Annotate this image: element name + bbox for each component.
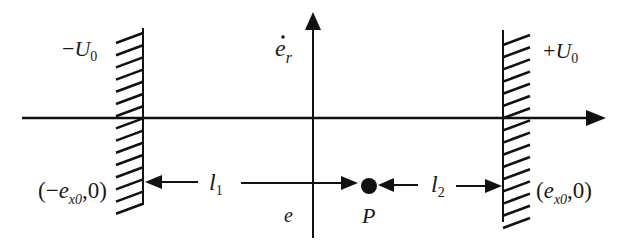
hatch-stroke xyxy=(503,206,530,216)
dimension-l1 xyxy=(145,175,358,190)
hatch-stroke xyxy=(503,47,530,57)
left-wall xyxy=(116,28,143,214)
right-potential-label: +U0 xyxy=(543,38,578,66)
lower-axis-label-e: e xyxy=(284,204,293,226)
hatch-stroke xyxy=(503,35,530,45)
right-point-label: (ex0,0) xyxy=(536,178,592,207)
hatch-stroke xyxy=(503,218,530,228)
hatch-stroke xyxy=(116,70,143,80)
hatch-stroke xyxy=(503,169,530,179)
l1-label: l1 xyxy=(209,169,223,198)
hatch-stroke xyxy=(116,94,143,104)
hatch-stroke xyxy=(503,194,530,204)
point-p-label: P xyxy=(361,203,375,228)
hatch-stroke xyxy=(503,120,530,130)
right-wall-hatching xyxy=(503,35,530,228)
hatch-stroke xyxy=(503,84,530,94)
hatch-stroke xyxy=(503,59,530,69)
hatch-stroke xyxy=(503,157,530,167)
l2-label: l2 xyxy=(431,171,445,200)
left-potential-label: −U0 xyxy=(62,36,97,64)
left-point-label: (−ex0,0) xyxy=(38,178,107,207)
arrow-right-icon xyxy=(341,176,358,190)
hatch-stroke xyxy=(116,155,143,165)
phase-plane-diagram: −U0 +U0 er (−ex0,0) (ex0,0) l1 l2 P e xyxy=(0,0,627,249)
hatch-stroke xyxy=(116,82,143,92)
left-wall-hatching xyxy=(116,33,143,214)
hatch-stroke xyxy=(503,72,530,82)
hatch-stroke xyxy=(503,145,530,155)
hatch-stroke xyxy=(116,204,143,214)
svg-text:er: er xyxy=(275,35,293,66)
hatch-stroke xyxy=(116,45,143,55)
hatch-stroke xyxy=(116,33,143,43)
hatch-stroke xyxy=(116,106,143,116)
axis-arrow-right-icon xyxy=(586,110,606,126)
hatch-stroke xyxy=(116,143,143,153)
hatch-stroke xyxy=(116,192,143,202)
hatch-stroke xyxy=(116,167,143,177)
hatch-stroke xyxy=(503,96,530,106)
axis-arrow-up-icon xyxy=(305,12,321,30)
arrow-left-icon xyxy=(378,178,394,192)
arrow-right-icon xyxy=(485,179,502,193)
arrow-left-icon xyxy=(145,175,162,189)
vertical-axis xyxy=(305,12,321,238)
right-wall xyxy=(503,30,530,228)
hatch-stroke xyxy=(503,133,530,143)
hatch-stroke xyxy=(116,131,143,141)
vertical-axis-label: er xyxy=(275,35,293,66)
hatch-stroke xyxy=(116,57,143,67)
hatch-stroke xyxy=(116,118,143,128)
hatch-stroke xyxy=(116,179,143,189)
hatch-stroke xyxy=(503,181,530,191)
point-p-dot xyxy=(361,178,377,194)
